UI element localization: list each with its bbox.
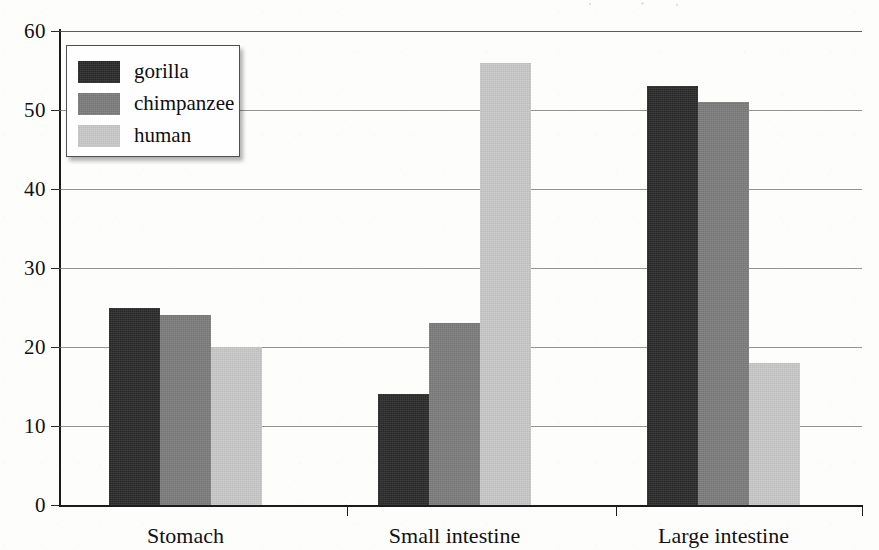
- y-tick-label: 50: [24, 98, 46, 123]
- legend-swatch-human: [78, 125, 120, 147]
- y-tick-label: 30: [24, 256, 46, 281]
- x-axis-separator: [862, 505, 863, 516]
- bar-chimpanzee-small-intestine: [429, 323, 480, 505]
- legend-item: chimpanzee: [78, 88, 239, 119]
- legend-swatch-chimpanzee: [78, 93, 120, 115]
- y-tick-label: 0: [35, 493, 46, 518]
- y-tick-mark: [51, 347, 59, 348]
- x-axis-label-small-intestine: Small intestine: [389, 523, 520, 549]
- x-axis-separator: [347, 505, 348, 516]
- bar-human-stomach: [211, 347, 262, 505]
- bar-chimpanzee-large-intestine: [698, 102, 749, 505]
- bar-gorilla-large-intestine: [647, 86, 698, 505]
- bar-chimpanzee-stomach: [160, 315, 211, 505]
- y-tick-label: 20: [24, 335, 46, 360]
- x-axis-separator: [616, 505, 617, 516]
- x-axis-label-stomach: Stomach: [147, 523, 224, 549]
- y-tick-mark: [51, 110, 59, 111]
- legend-swatch-gorilla: [78, 61, 120, 83]
- y-tick-mark: [51, 31, 59, 32]
- bar-gorilla-small-intestine: [378, 394, 429, 505]
- y-tick-mark: [51, 505, 59, 506]
- x-axis-label-large-intestine: Large intestine: [658, 523, 789, 549]
- bar-human-small-intestine: [480, 63, 531, 505]
- x-axis-line: [59, 505, 862, 507]
- bar-gorilla-stomach: [109, 308, 160, 506]
- bar-human-large-intestine: [749, 363, 800, 505]
- y-tick-mark: [51, 426, 59, 427]
- legend-label-gorilla: gorilla: [134, 61, 189, 82]
- legend-label-human: human: [134, 125, 191, 146]
- legend-item: gorilla: [78, 56, 239, 87]
- legend-label-chimpanzee: chimpanzee: [134, 93, 234, 114]
- y-tick-mark: [51, 268, 59, 269]
- legend-item: human: [78, 120, 239, 151]
- legend: gorilla chimpanzee human: [66, 45, 240, 157]
- cropped-title-remnant: [560, 0, 710, 6]
- y-tick-label: 10: [24, 414, 46, 439]
- y-tick-label: 60: [24, 19, 46, 44]
- y-tick-label: 40: [24, 177, 46, 202]
- bar-chart: 0102030405060 StomachSmall intestineLarg…: [0, 0, 879, 550]
- gridline: [59, 31, 862, 32]
- y-tick-mark: [51, 189, 59, 190]
